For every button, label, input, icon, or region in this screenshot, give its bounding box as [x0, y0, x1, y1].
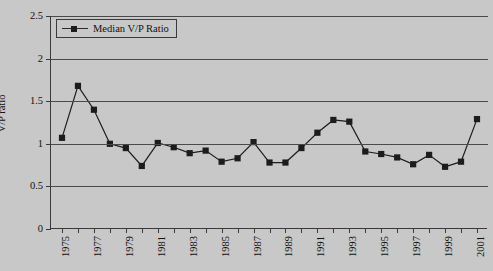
- x-axis-tick-label: 1975: [61, 236, 71, 257]
- data-point-marker: [314, 130, 320, 136]
- y-axis-tick: [46, 101, 51, 102]
- y-gridline: [51, 144, 488, 145]
- x-axis-tick: [477, 228, 478, 233]
- legend-marker-sample: [62, 24, 88, 33]
- x-axis-tick: [78, 228, 79, 233]
- y-axis-tick-label: 0.5: [30, 181, 43, 191]
- x-axis-tick: [94, 228, 95, 233]
- data-point-marker: [298, 145, 304, 151]
- x-axis-tick: [397, 228, 398, 233]
- y-axis-tick: [46, 229, 51, 230]
- x-axis-tick: [222, 228, 223, 233]
- x-axis-tick-label: 1981: [157, 236, 167, 257]
- x-axis-tick-label: 2001: [476, 236, 486, 257]
- y-axis-title: V/P ratio: [0, 95, 7, 133]
- y-axis-tick-label: 1.5: [30, 96, 43, 106]
- x-axis-tick: [349, 228, 350, 233]
- data-point-marker: [187, 150, 193, 156]
- x-axis-tick-label: 1989: [284, 236, 294, 257]
- x-axis-tick: [365, 228, 366, 233]
- x-axis-tick: [142, 228, 143, 233]
- data-point-marker: [442, 164, 448, 170]
- data-point-marker: [266, 159, 272, 165]
- data-point-marker: [378, 151, 384, 157]
- y-axis-tick: [46, 144, 51, 145]
- x-axis-tick: [126, 228, 127, 233]
- x-axis-tick-label: 1977: [93, 236, 103, 257]
- data-point-marker: [410, 161, 416, 167]
- y-axis-tick-label: 1: [38, 139, 43, 149]
- legend-item-label: Median V/P Ratio: [93, 23, 169, 34]
- legend-square-marker-icon: [71, 26, 77, 32]
- x-axis-tick: [270, 228, 271, 233]
- x-axis-tick: [333, 228, 334, 233]
- data-point-marker: [394, 154, 400, 160]
- x-axis-tick: [190, 228, 191, 233]
- x-axis-tick-label: 1985: [221, 236, 231, 257]
- x-axis-tick: [429, 228, 430, 233]
- x-axis-tick: [238, 228, 239, 233]
- x-axis-tick-label: 1995: [380, 236, 390, 257]
- y-gridline: [51, 186, 488, 187]
- x-axis-tick-label: 1993: [348, 236, 358, 257]
- y-axis-tick-label: 2: [38, 54, 43, 64]
- x-axis-tick-label: 1991: [316, 236, 326, 257]
- plot-area: 00.511.522.51975197719791981198319851987…: [50, 16, 487, 229]
- data-point-marker: [123, 145, 129, 151]
- x-axis-tick: [445, 228, 446, 233]
- x-axis-tick: [413, 228, 414, 233]
- x-axis-tick: [317, 228, 318, 233]
- x-axis-tick: [62, 228, 63, 233]
- data-point-marker: [171, 144, 177, 150]
- y-axis-tick-label: 2.5: [30, 11, 43, 21]
- data-point-marker: [75, 83, 81, 89]
- data-point-marker: [219, 159, 225, 165]
- x-axis-tick-label: 1999: [444, 236, 454, 257]
- x-axis-tick: [158, 228, 159, 233]
- y-gridline: [51, 59, 488, 60]
- x-axis-tick: [110, 228, 111, 233]
- series-layer: [51, 16, 488, 229]
- x-axis-tick: [174, 228, 175, 233]
- x-axis-tick: [285, 228, 286, 233]
- y-gridline: [51, 101, 488, 102]
- x-axis-tick: [381, 228, 382, 233]
- x-axis-tick-label: 1979: [125, 236, 135, 257]
- y-axis-tick: [46, 59, 51, 60]
- x-axis-tick-label: 1997: [412, 236, 422, 257]
- y-axis-tick: [46, 186, 51, 187]
- data-point-marker: [139, 163, 145, 169]
- data-point-marker: [59, 135, 65, 141]
- y-axis-tick: [46, 16, 51, 17]
- data-point-marker: [203, 148, 209, 154]
- data-point-marker: [234, 155, 240, 161]
- chart-figure: V/P ratio 00.511.522.5197519771979198119…: [0, 0, 493, 271]
- series-line: [62, 86, 477, 167]
- data-point-marker: [474, 116, 480, 122]
- x-axis-tick: [254, 228, 255, 233]
- data-point-marker: [282, 159, 288, 165]
- x-axis-tick: [301, 228, 302, 233]
- chart-legend: Median V/P Ratio: [56, 19, 177, 38]
- y-axis-tick-label: 0: [38, 224, 43, 234]
- data-point-marker: [362, 148, 368, 154]
- data-point-marker: [346, 119, 352, 125]
- data-point-marker: [91, 107, 97, 113]
- x-axis-tick-label: 1983: [189, 236, 199, 257]
- data-point-marker: [458, 159, 464, 165]
- data-point-marker: [330, 117, 336, 123]
- y-gridline: [51, 16, 488, 17]
- x-axis-tick: [461, 228, 462, 233]
- data-point-marker: [426, 152, 432, 158]
- x-axis-tick-label: 1987: [253, 236, 263, 257]
- x-axis-tick: [206, 228, 207, 233]
